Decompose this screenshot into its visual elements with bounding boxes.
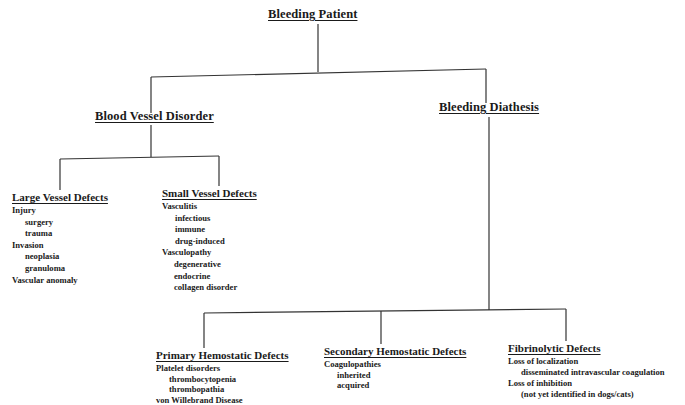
primary-hemostatic-defects-title: Primary Hemostatic Defects <box>156 349 289 361</box>
large-vessel-defects-list: Injury surgery trauma Invasion neoplasia… <box>12 205 108 286</box>
list-item: Injury <box>12 205 108 217</box>
small-vessel-defects-list: Vasculitis infectious immune drug-induce… <box>162 201 257 294</box>
list-item: Coagulopathies <box>324 359 466 370</box>
list-item: Vascular anomaly <box>12 275 108 287</box>
list-item: collagen disorder <box>162 282 257 294</box>
fibrinolytic-defects-list: Loss of localization disseminated intrav… <box>508 356 665 400</box>
fibrinolytic-defects-title: Fibrinolytic Defects <box>508 342 665 354</box>
list-item: thrombocytopenia <box>156 374 289 385</box>
list-item: acquired <box>324 380 466 391</box>
list-item: inherited <box>324 370 466 381</box>
list-item: thrombopathia <box>156 384 289 395</box>
secondary-hemostatic-defects-list: Coagulopathies inherited acquired <box>324 359 466 391</box>
list-item: granuloma <box>12 263 108 275</box>
large-vessel-defects-node: Large Vessel Defects Injury surgery trau… <box>12 191 108 286</box>
small-vessel-defects-title: Small Vessel Defects <box>162 187 257 199</box>
primary-hemostatic-defects-list: Platelet disorders thrombocytopenia thro… <box>156 363 289 405</box>
list-item: endocrine <box>162 271 257 283</box>
large-vessel-defects-title: Large Vessel Defects <box>12 191 108 203</box>
list-item: Platelet disorders <box>156 363 289 374</box>
list-item: surgery <box>12 217 108 229</box>
small-vessel-defects-node: Small Vessel Defects Vasculitis infectio… <box>162 187 257 294</box>
list-item: drug-induced <box>162 236 257 248</box>
list-item: Loss of inhibition <box>508 378 665 389</box>
root-node-title: Bleeding Patient <box>268 7 357 22</box>
secondary-hemostatic-defects-title: Secondary Hemostatic Defects <box>324 345 466 357</box>
list-item: (not yet identified in dogs/cats) <box>508 389 665 400</box>
list-item: Invasion <box>12 240 108 252</box>
list-item: trauma <box>12 228 108 240</box>
blood-vessel-disorder-title: Blood Vessel Disorder <box>95 109 214 124</box>
list-item: degenerative <box>162 259 257 271</box>
list-item: Vasculopathy <box>162 247 257 259</box>
bleeding-diathesis-title: Bleeding Diathesis <box>439 100 539 115</box>
fibrinolytic-defects-node: Fibrinolytic Defects Loss of localizatio… <box>508 342 665 400</box>
list-item: immune <box>162 224 257 236</box>
list-item: neoplasia <box>12 251 108 263</box>
list-item: von Willebrand Disease <box>156 395 289 405</box>
list-item: Vasculitis <box>162 201 257 213</box>
primary-hemostatic-defects-node: Primary Hemostatic Defects Platelet diso… <box>156 349 289 405</box>
secondary-hemostatic-defects-node: Secondary Hemostatic Defects Coagulopath… <box>324 345 466 391</box>
list-item: Loss of localization <box>508 356 665 367</box>
list-item: infectious <box>162 213 257 225</box>
list-item: disseminated intravascular coagulation <box>508 367 665 378</box>
